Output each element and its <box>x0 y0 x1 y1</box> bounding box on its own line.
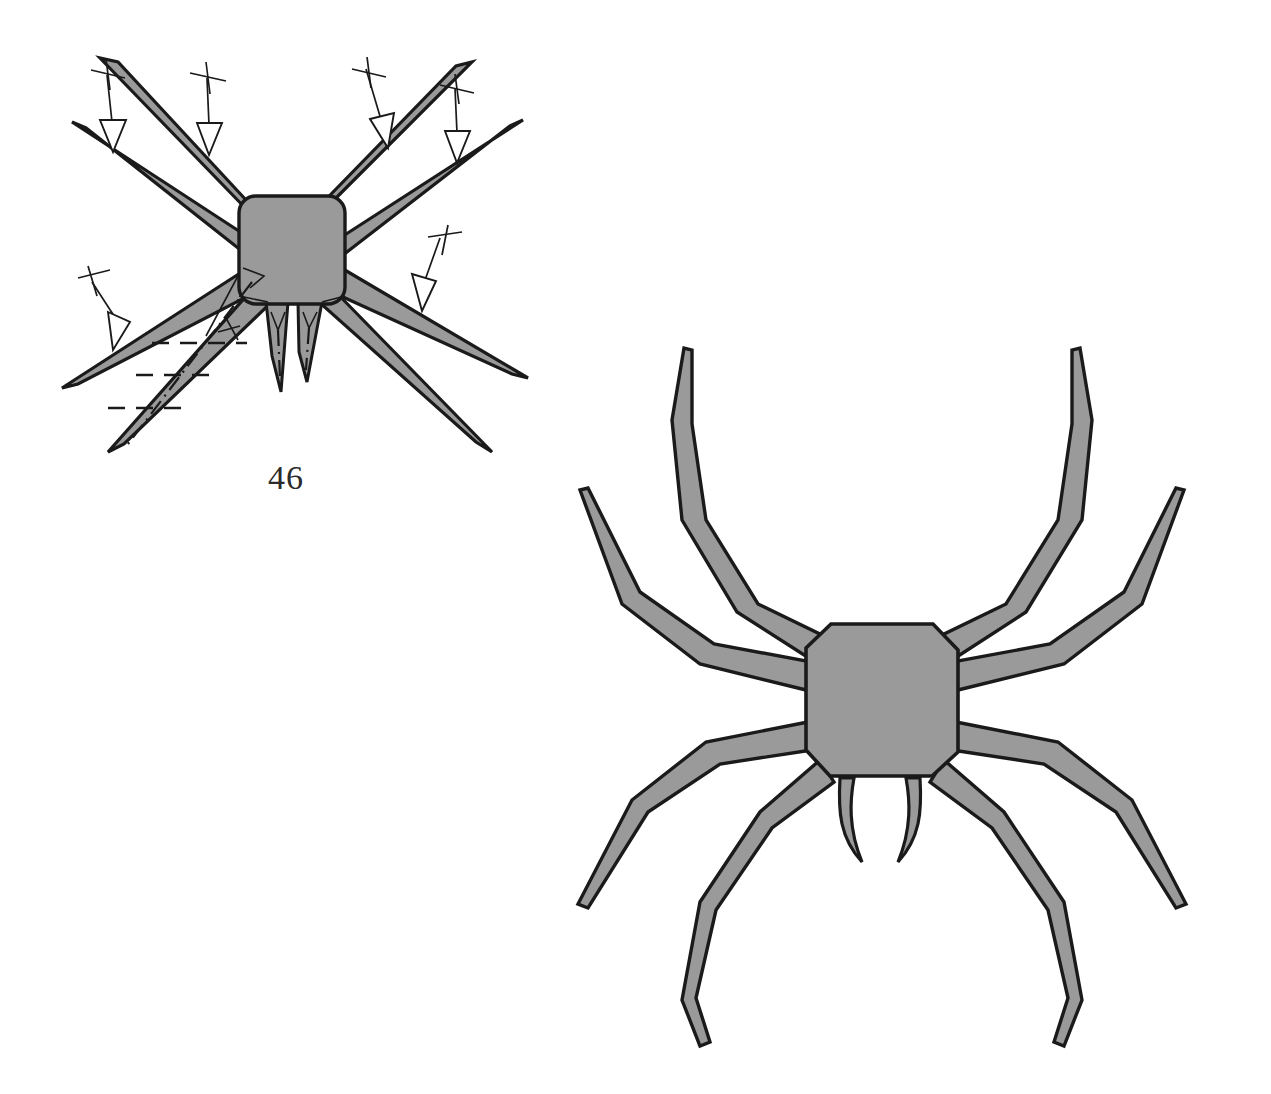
page-background <box>0 0 1271 1094</box>
step-number: 46 <box>268 459 304 496</box>
step-figure-body <box>239 196 345 304</box>
result-figure-body <box>806 624 958 776</box>
origami-diagram-canvas: 46 <box>0 0 1271 1094</box>
